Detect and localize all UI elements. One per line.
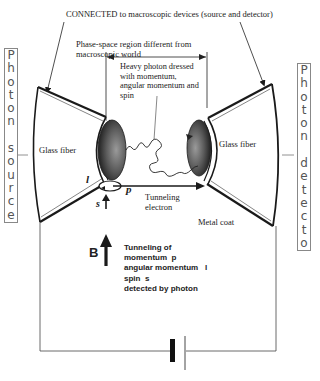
tunneling-info-line-3: angular momentum l [124, 263, 207, 273]
metal-coat-label: Metal coat [198, 218, 234, 228]
tunneling-diagram: CONNECTED to macroscopic devices (source… [0, 0, 320, 381]
symbol-l: l [86, 173, 89, 186]
heavy-photon-label: Heavy photon dressed with momentum, angu… [120, 62, 202, 100]
left-metal-tip [98, 120, 126, 180]
battery-icon [170, 336, 185, 370]
tunneling-info-text: Tunneling of momentum p angular momentum… [124, 243, 207, 294]
symbol-b: B [89, 246, 98, 261]
tunneling-info-line-1: Tunneling of [124, 243, 207, 253]
top-connected-label: CONNECTED to macroscopic devices (source… [66, 10, 273, 20]
phase-space-label: Phase-space region different from macros… [76, 40, 226, 60]
tunneling-info-line-4: spin s [124, 274, 207, 284]
photon-source-label: P h o t o n s o u r c e [4, 48, 18, 223]
tunneling-info-line-5: detected by photon [124, 284, 207, 294]
tunneling-info-line-2: momentum p [124, 253, 207, 263]
symbol-s: s [96, 198, 100, 210]
right-metal-tip [187, 120, 211, 176]
left-glass-fiber-label: Glass fiber [39, 146, 76, 156]
photon-detector-label: P h o t o n d e t e c t o [297, 63, 311, 251]
tunneling-electron-label: Tunneling electron [145, 193, 195, 213]
right-glass-fiber [204, 84, 294, 226]
symbol-p: p [126, 183, 132, 196]
right-glass-fiber-label: Glass fiber [219, 140, 256, 150]
